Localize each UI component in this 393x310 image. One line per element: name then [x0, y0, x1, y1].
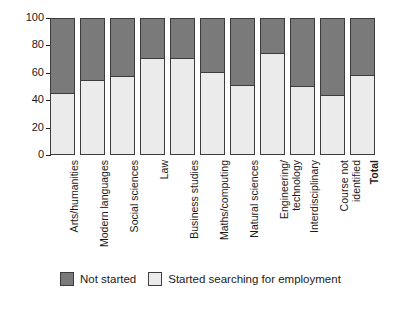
x-category-label: Modern languages	[99, 160, 111, 260]
y-tick-mark	[46, 73, 50, 74]
legend-swatch	[148, 272, 162, 286]
bar-group	[320, 18, 345, 155]
bar-segment-not-started	[111, 19, 134, 77]
x-category-label: Social sciences	[129, 160, 141, 260]
legend-entry: Not started	[60, 272, 136, 286]
bar-stack	[50, 18, 75, 155]
bar-segment-started-searching	[81, 79, 104, 154]
y-tick-mark	[46, 155, 50, 156]
plot-area	[50, 18, 385, 155]
bar-segment-started-searching	[171, 57, 194, 154]
bar-segment-not-started	[291, 19, 314, 87]
y-tick-label: 100	[16, 12, 44, 23]
bar-group	[260, 18, 285, 155]
bar-segment-not-started	[321, 19, 344, 96]
bar-segment-not-started	[171, 19, 194, 59]
bar-group	[140, 18, 165, 155]
bar-group	[110, 18, 135, 155]
x-category-label: Maths/computing	[219, 160, 231, 260]
y-tick-label: 60	[16, 67, 44, 78]
x-category-label: Engineering/ technology	[279, 160, 302, 260]
bar-stack	[260, 18, 285, 155]
x-category-label: Arts/humanities	[69, 160, 81, 260]
y-axis-tick-labels: 020406080100	[10, 0, 44, 200]
legend-label: Not started	[80, 273, 136, 285]
x-category-label: Natural sciences	[249, 160, 261, 260]
bar-segment-not-started	[261, 19, 284, 54]
bar-segment-started-searching	[231, 84, 254, 154]
bar-group	[50, 18, 75, 155]
bar-segment-started-searching	[321, 94, 344, 154]
bar-segment-started-searching	[291, 85, 314, 154]
y-tick-label: 40	[16, 94, 44, 105]
x-category-label: Total	[369, 160, 381, 260]
bar-segment-started-searching	[201, 71, 224, 154]
bar-group	[350, 18, 375, 155]
bar-segment-started-searching	[51, 92, 74, 154]
legend-swatch	[60, 272, 74, 286]
bar-segment-not-started	[201, 19, 224, 73]
bar-group	[290, 18, 315, 155]
bar-stack	[230, 18, 255, 155]
bar-segment-started-searching	[111, 75, 134, 154]
chart-legend: Not startedStarted searching for employm…	[60, 272, 341, 286]
y-tick-mark	[46, 128, 50, 129]
bar-stack	[290, 18, 315, 155]
legend-entry: Started searching for employment	[148, 272, 341, 286]
bar-stack	[200, 18, 225, 155]
bar-segment-started-searching	[261, 52, 284, 154]
x-category-label: Business studies	[189, 160, 201, 260]
bar-stack	[320, 18, 345, 155]
bar-segment-not-started	[351, 19, 374, 76]
bar-stack	[80, 18, 105, 155]
bar-segment-not-started	[81, 19, 104, 81]
bar-stack	[350, 18, 375, 155]
bar-group	[170, 18, 195, 155]
y-tick-mark	[46, 100, 50, 101]
x-category-label: Course not identified	[339, 160, 362, 260]
bar-segment-started-searching	[141, 57, 164, 154]
bar-group	[230, 18, 255, 155]
x-category-label: Interdisciplinary	[309, 160, 321, 260]
legend-label: Started searching for employment	[168, 273, 341, 285]
x-category-label: Law	[159, 160, 171, 260]
stacked-bar-chart: 020406080100 Arts/humanitiesModern langu…	[0, 0, 393, 310]
bar-group	[80, 18, 105, 155]
y-tick-mark	[46, 18, 50, 19]
bar-segment-started-searching	[351, 74, 374, 154]
bar-stack	[140, 18, 165, 155]
bar-stack	[170, 18, 195, 155]
bar-segment-not-started	[231, 19, 254, 86]
y-tick-label: 0	[16, 149, 44, 160]
bar-stack	[110, 18, 135, 155]
bar-group	[200, 18, 225, 155]
y-tick-label: 80	[16, 39, 44, 50]
y-tick-mark	[46, 45, 50, 46]
y-tick-label: 20	[16, 122, 44, 133]
bar-segment-not-started	[141, 19, 164, 59]
bar-segment-not-started	[51, 19, 74, 94]
